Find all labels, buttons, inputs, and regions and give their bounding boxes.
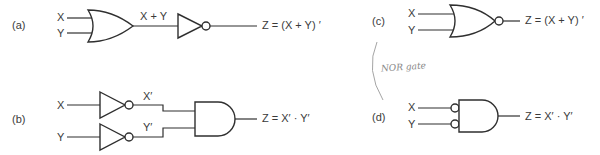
panel-a-intermediate: X + Y: [140, 11, 167, 22]
logic-gate-diagram: (a) X Y X + Y Z = (X + Y) ′ (b) X Y X′ Y…: [0, 0, 600, 155]
panel-d-input-x: X: [408, 102, 415, 113]
panel-a-output: Z = (X + Y) ′: [262, 20, 321, 31]
or-gate-icon: [88, 10, 133, 42]
and-gate-inverted-inputs-icon: [459, 100, 498, 132]
panel-c-label: (c): [372, 16, 385, 27]
not-gate-icon: [178, 14, 202, 38]
panel-a-input-x: X: [57, 12, 64, 23]
panel-a-label: (a): [12, 20, 25, 31]
panel-c-output: Z = (X + Y) ′: [525, 15, 584, 26]
panel-c-input-x: X: [408, 8, 415, 19]
not-gate-x-icon: [100, 92, 125, 118]
panel-b-x-prime: X′: [143, 91, 152, 102]
panel-b-y-prime: Y′: [143, 122, 152, 133]
and-gate-icon: [195, 102, 235, 136]
panel-d-circuit: [418, 100, 520, 132]
panel-b-input-y: Y: [57, 132, 64, 143]
panel-b-input-x: X: [57, 100, 64, 111]
panel-d-label: (d): [372, 112, 385, 123]
panel-c-input-y: Y: [408, 25, 415, 36]
nor-gate-icon: [450, 5, 495, 37]
not-gate-y-icon: [100, 124, 125, 150]
panel-b-output: Z = X′ · Y′: [262, 113, 310, 124]
panel-b-circuit: [67, 92, 257, 150]
panel-c-circuit: [418, 5, 520, 37]
panel-a-input-y: Y: [57, 28, 64, 39]
panel-b-label: (b): [12, 114, 25, 125]
panel-d-output: Z = X′ · Y′: [525, 111, 573, 122]
panel-d-input-y: Y: [408, 119, 415, 130]
